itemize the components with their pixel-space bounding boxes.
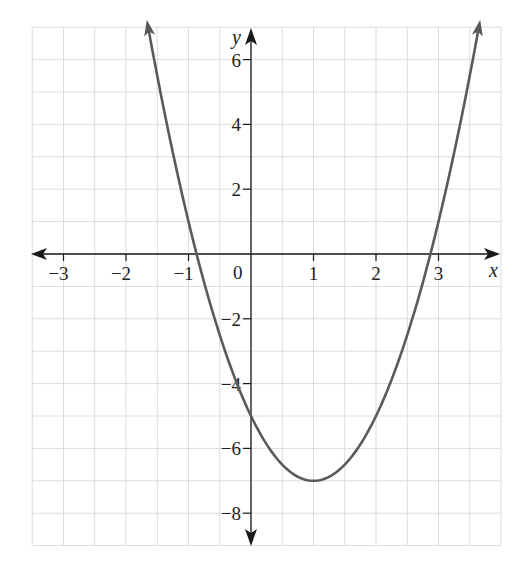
y-tick-label: 2 bbox=[232, 179, 242, 200]
x-axis-label: x bbox=[488, 259, 498, 281]
y-tick-label: −6 bbox=[221, 438, 241, 459]
y-tick-label: −8 bbox=[221, 503, 241, 524]
x-tick-label: −3 bbox=[48, 263, 68, 284]
x-tick-label: −2 bbox=[111, 263, 131, 284]
y-tick-label: 6 bbox=[232, 50, 242, 71]
y-tick-label: 4 bbox=[232, 114, 242, 135]
x-tick-label: −1 bbox=[173, 263, 193, 284]
y-axis-label: y bbox=[230, 26, 241, 49]
parabola-chart: −3−2−1123642−2−4−6−8 x y 0 bbox=[0, 0, 515, 567]
axes bbox=[31, 28, 500, 546]
y-tick-label: −2 bbox=[221, 309, 241, 330]
origin-label: 0 bbox=[233, 262, 243, 283]
x-tick-label: 2 bbox=[371, 263, 381, 284]
x-tick-label: 1 bbox=[309, 263, 319, 284]
grid bbox=[32, 27, 501, 545]
x-tick-label: 3 bbox=[434, 263, 444, 284]
